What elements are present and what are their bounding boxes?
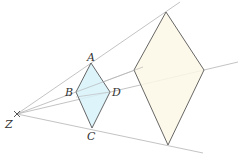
image-rhombus — [134, 12, 204, 145]
enlargement-diagram: Z A B D C — [0, 0, 241, 167]
label-Z: Z — [4, 118, 13, 131]
label-B: B — [64, 86, 73, 99]
label-D: D — [111, 86, 121, 99]
label-C: C — [87, 130, 96, 143]
label-A: A — [86, 51, 95, 64]
object-rhombus-ABCD — [76, 63, 110, 128]
ray-through-D — [17, 62, 238, 114]
rays — [17, 2, 238, 153]
centre-cross-icon — [14, 111, 20, 117]
